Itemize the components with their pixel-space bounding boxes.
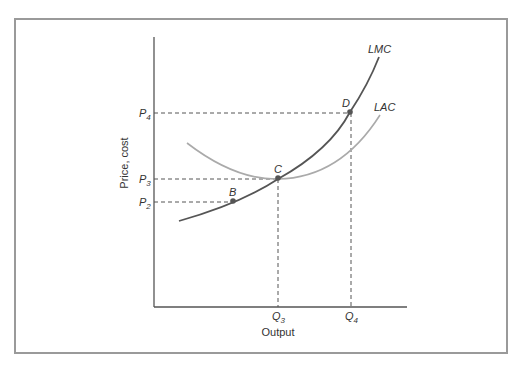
y-axis-title: Price, cost bbox=[118, 137, 130, 188]
p3-label: P3 bbox=[139, 173, 151, 188]
q4-label: Q4 bbox=[345, 310, 359, 325]
point-d-label: D bbox=[342, 97, 350, 109]
lmc-label: LMC bbox=[368, 43, 391, 55]
point-c bbox=[275, 175, 281, 181]
cost-curves-chart: B C D LMC LAC P4 P3 P2 Q3 Q4 Output Pric… bbox=[0, 0, 522, 367]
p2-label: P2 bbox=[139, 196, 151, 211]
guide-lines bbox=[154, 113, 351, 307]
x-axis-title: Output bbox=[261, 326, 294, 338]
lac-label: LAC bbox=[374, 101, 395, 113]
q3-label: Q3 bbox=[272, 310, 286, 325]
point-b-label: B bbox=[229, 186, 236, 198]
point-d bbox=[347, 109, 353, 115]
p4-label: P4 bbox=[139, 107, 151, 122]
point-b bbox=[230, 198, 236, 204]
lmc-curve bbox=[179, 57, 379, 221]
point-c-label: C bbox=[274, 163, 282, 175]
